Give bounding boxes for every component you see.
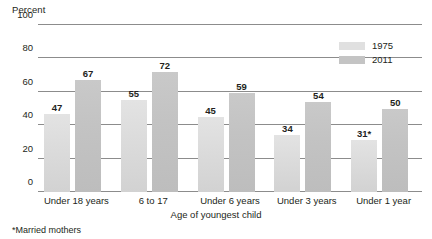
bar-group: 4767 xyxy=(38,25,115,192)
x-axis-title: Age of youngest child xyxy=(0,209,432,221)
bar-2011-under-1-year: 50 xyxy=(382,109,408,193)
bar-value-label: 50 xyxy=(382,97,408,108)
legend-swatch-icon xyxy=(339,56,365,64)
bar-1975-under-6-years: 45 xyxy=(198,117,224,192)
x-axis-label: Under 18 years xyxy=(38,195,115,207)
bar-1975-under-18-years: 47 xyxy=(44,114,70,192)
bar-2011-6-to-17: 72 xyxy=(152,72,178,192)
bar-group: 4559 xyxy=(192,25,269,192)
bar-value-label: 31* xyxy=(351,128,377,139)
legend-item-1975[interactable]: 1975 xyxy=(339,40,423,51)
bar-2011-under-3-years: 54 xyxy=(305,102,331,192)
x-axis-label: 6 to 17 xyxy=(115,195,192,207)
bar-1975-under-3-years: 34 xyxy=(274,135,300,192)
y-axis-tick-60: 60 xyxy=(22,77,33,87)
bar-value-label: 34 xyxy=(274,123,300,134)
legend-swatch-icon xyxy=(339,42,365,50)
bar-value-label: 67 xyxy=(75,68,101,79)
bar-value-label: 45 xyxy=(198,105,224,116)
y-axis-tick-40: 40 xyxy=(22,110,33,120)
legend-label: 1975 xyxy=(372,40,393,51)
bar-2011-under-6-years: 59 xyxy=(229,93,255,192)
bar-value-label: 72 xyxy=(152,60,178,71)
bar-1975-6-to-17: 55 xyxy=(121,100,147,192)
y-axis-tick-80: 80 xyxy=(22,43,33,53)
y-axis-tick-0: 0 xyxy=(28,177,33,187)
bar-value-label: 54 xyxy=(305,90,331,101)
chart-footnote: *Married mothers xyxy=(12,225,81,236)
x-axis-label: Under 1 year xyxy=(345,195,422,207)
y-axis-tick-100: 100 xyxy=(17,10,33,20)
bar-group: 5572 xyxy=(115,25,192,192)
x-axis-label: Under 6 years xyxy=(192,195,269,207)
bar-value-label: 55 xyxy=(121,88,147,99)
bar-2011-under-18-years: 67 xyxy=(75,80,101,192)
bar-chart: Percent 020406080100 476755724559345431*… xyxy=(0,0,432,239)
legend: 19752011 xyxy=(339,40,423,68)
y-axis-tick-20: 20 xyxy=(22,144,33,154)
x-axis-label: Under 3 years xyxy=(268,195,345,207)
bar-value-label: 59 xyxy=(229,81,255,92)
x-axis-category-labels: Under 18 years6 to 17Under 6 yearsUnder … xyxy=(38,195,422,209)
bar-1975-under-1-year: 31* xyxy=(351,140,377,192)
bar-value-label: 47 xyxy=(44,102,70,113)
bar-group: 3454 xyxy=(268,25,345,192)
legend-label: 2011 xyxy=(372,54,392,65)
legend-item-2011[interactable]: 2011 xyxy=(339,54,423,65)
